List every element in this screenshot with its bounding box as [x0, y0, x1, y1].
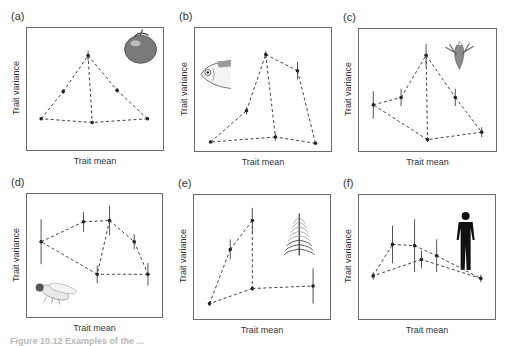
figure-caption: Figure 10.12 Examples of the ... [10, 336, 144, 346]
dashed-connector [437, 256, 481, 279]
data-point [479, 277, 483, 281]
data-point [420, 258, 424, 262]
data-point [413, 244, 417, 248]
dashed-connector [373, 244, 392, 276]
dashed-connector [415, 246, 437, 256]
dashed-connector [393, 244, 415, 245]
data-point [435, 254, 439, 258]
data-point [391, 243, 395, 247]
dashed-connector [421, 260, 480, 279]
human-silhouette-icon [457, 212, 475, 270]
data-point [371, 274, 375, 278]
